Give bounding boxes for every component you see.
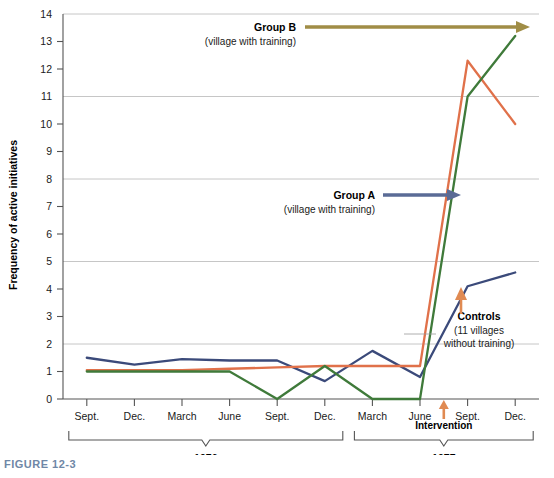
y-tick-label: 14 <box>40 8 52 20</box>
x-tick-label: March <box>167 410 196 422</box>
annotation-controls-subtitle-1: (11 villages <box>454 325 504 336</box>
y-tick-label: 0 <box>46 393 52 405</box>
intervention-arrowhead-icon <box>439 400 449 409</box>
y-tick-label: 4 <box>46 283 52 295</box>
y-tick-label: 10 <box>40 118 52 130</box>
y-tick-label: 5 <box>46 255 52 267</box>
x-axis-ticks: Sept.Dec.MarchJuneSept.Dec.MarchJuneSept… <box>75 399 526 422</box>
y-tick-label: 7 <box>46 200 52 212</box>
series-line-controls <box>87 273 515 382</box>
annotation-group-b: Group B (village with training) <box>205 21 530 47</box>
period-label: 1976 <box>194 452 218 455</box>
x-tick-label: Sept. <box>75 410 100 422</box>
x-tick-label: June <box>218 410 241 422</box>
period-label: 1977 <box>432 452 456 455</box>
line-chart: 01234567891011121314 Frequency of active… <box>0 0 554 455</box>
annotation-group-b-arrowhead-icon <box>516 21 530 33</box>
figure-caption: FIGURE 12-3 <box>4 458 76 470</box>
period-bracket <box>354 431 533 446</box>
figure-container: 01234567891011121314 Frequency of active… <box>0 0 554 478</box>
y-tick-label: 12 <box>40 63 52 75</box>
y-tick-label: 6 <box>46 228 52 240</box>
annotation-controls-title: Controls <box>457 310 500 322</box>
annotation-group-b-title: Group B <box>254 21 296 33</box>
y-axis-ticks: 01234567891011121314 <box>40 8 63 405</box>
x-tick-label: Dec. <box>314 410 336 422</box>
intervention-label: Intervention <box>415 420 472 431</box>
x-tick-label: Sept. <box>265 410 290 422</box>
annotation-group-b-subtitle: (village with training) <box>205 36 296 47</box>
annotation-group-a-subtitle: (village with training) <box>284 204 375 215</box>
y-tick-label: 13 <box>40 35 52 47</box>
x-tick-label: Dec. <box>124 410 146 422</box>
series-line-group-a <box>87 61 515 370</box>
y-tick-label: 9 <box>46 145 52 157</box>
y-tick-label: 11 <box>41 90 52 102</box>
period-brackets-group: 19761977 <box>69 431 533 455</box>
y-tick-label: 3 <box>46 310 52 322</box>
annotation-group-a-title: Group A <box>333 189 375 201</box>
y-axis-title: Frequency of active initiatives <box>7 140 19 290</box>
annotation-controls: Controls (11 villages without training) <box>404 287 514 349</box>
y-tick-label: 2 <box>46 338 52 350</box>
y-tick-label: 1 <box>46 365 52 377</box>
x-tick-label: Dec. <box>504 410 526 422</box>
x-tick-label: March <box>358 410 387 422</box>
annotation-controls-subtitle-2: without training) <box>443 338 515 349</box>
annotation-group-a-arrowhead-icon <box>447 189 461 201</box>
period-bracket <box>69 431 343 446</box>
y-tick-label: 8 <box>46 173 52 185</box>
annotation-group-a: Group A (village with training) <box>284 189 461 215</box>
